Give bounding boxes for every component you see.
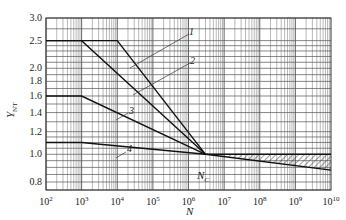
x-tick-label: 102 — [31, 194, 61, 207]
x-tick-label: 104 — [102, 194, 132, 207]
curve-label-3: 3 — [129, 105, 134, 116]
y-tick-label: 1.0 — [12, 149, 42, 159]
x-tick-label: 109 — [280, 194, 310, 207]
x-tick-label: 103 — [67, 194, 97, 207]
x-tick-label: 1010 — [316, 194, 346, 207]
y-tick-label: 3.0 — [12, 13, 42, 23]
leader-line-2 — [133, 63, 190, 95]
curve-label-1: 1 — [189, 26, 194, 37]
nc-annotation: NC — [197, 169, 209, 184]
y-tick-label: 1.8 — [12, 76, 42, 86]
y-tick-label: 2.0 — [12, 63, 42, 73]
y-tick-label: 1.6 — [12, 91, 42, 101]
y-tick-label: 1.4 — [12, 108, 42, 118]
y-tick-label: 1.2 — [12, 127, 42, 137]
x-tick-label: 105 — [138, 194, 168, 207]
chart-canvas — [0, 0, 346, 220]
x-tick-label: 107 — [209, 194, 239, 207]
curve-label-4: 4 — [127, 143, 132, 154]
y-tick-label: 2.5 — [12, 36, 42, 46]
curve-3 — [46, 96, 205, 154]
x-tick-label: 106 — [174, 194, 204, 207]
curve-label-2: 2 — [190, 55, 195, 66]
y-tick-label: 0.8 — [12, 177, 42, 187]
x-tick-label: 108 — [245, 194, 275, 207]
